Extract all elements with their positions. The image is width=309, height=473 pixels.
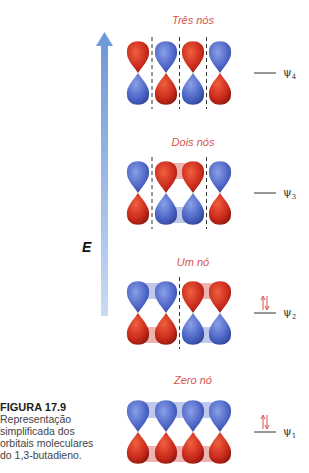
psi2-label: ψ2 [283, 306, 296, 321]
orbital-ψ4 [127, 37, 276, 109]
orbital-ψ2 [127, 277, 276, 349]
energy-axis-arrow [96, 32, 113, 316]
title-psi4: Três nós [133, 14, 253, 26]
psi1-label: ψ1 [283, 425, 296, 440]
energy-label: E [82, 239, 91, 255]
figure-label: FIGURA 17.9 [0, 401, 110, 413]
psi4-label: ψ4 [283, 66, 296, 81]
orbital-ψ3 [127, 157, 276, 229]
orbital-ψ1 [127, 400, 276, 464]
title-psi3: Dois nós [133, 136, 253, 148]
caption-line: Representação [0, 413, 110, 425]
caption-line: orbitais moleculares [0, 437, 110, 449]
caption-line: do 1,3-butadieno. [0, 449, 110, 461]
figure-caption: FIGURA 17.9 Representação simplificada d… [0, 401, 110, 461]
title-psi2: Um nó [133, 256, 253, 268]
psi3-label: ψ3 [283, 186, 296, 201]
title-psi1: Zero nó [133, 374, 253, 386]
caption-line: simplificada dos [0, 425, 110, 437]
